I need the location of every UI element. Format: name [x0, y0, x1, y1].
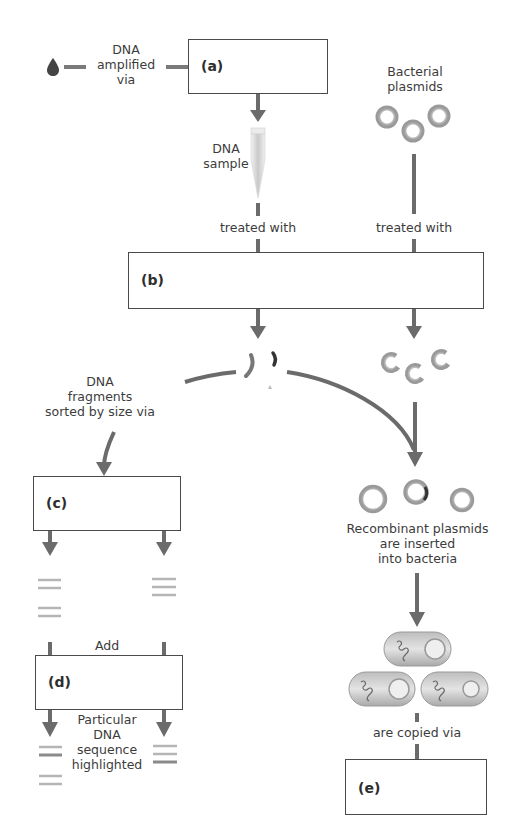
- label-particular: Particular DNA sequence highlighted: [64, 712, 150, 772]
- label-add: Add: [82, 638, 132, 653]
- label-dna-amplified: DNA amplified via: [86, 42, 166, 87]
- box-e-label: (e): [358, 780, 380, 796]
- label-recombinant: Recombinant plasmids are inserted into b…: [330, 521, 505, 566]
- box-d-label: (d): [48, 674, 71, 690]
- label-line: fragments: [30, 389, 170, 404]
- label-line: Bacterial: [370, 64, 460, 79]
- blood-drop-icon: [47, 58, 59, 76]
- box-c: (c): [33, 476, 181, 531]
- box-a: (a): [188, 39, 328, 94]
- gel-band-icon: [38, 579, 176, 616]
- label-dna-sample: DNA sample: [196, 141, 256, 171]
- box-d: (d): [35, 655, 183, 710]
- label-line: plasmids: [370, 79, 460, 94]
- box-c-label: (c): [46, 495, 67, 511]
- label-bacterial-plasmids: Bacterial plasmids: [370, 64, 460, 94]
- label-line: Recombinant plasmids: [330, 521, 505, 536]
- label-line: DNA: [86, 42, 166, 57]
- box-b: (b): [128, 252, 484, 309]
- box-e: (e): [345, 759, 487, 815]
- label-line: DNA: [30, 374, 170, 389]
- box-b-label: (b): [141, 272, 164, 288]
- plasmid-ring-icon: [378, 107, 448, 140]
- label-treated-with-left: treated with: [208, 220, 308, 235]
- label-line: amplified: [86, 57, 166, 72]
- dna-fragment-icon: [246, 353, 275, 389]
- label-line: Particular: [64, 712, 150, 727]
- label-line: via: [86, 72, 166, 87]
- label-line: DNA: [64, 727, 150, 742]
- label-line: are inserted: [330, 536, 505, 551]
- plasmid-cut-icon: [383, 352, 448, 382]
- box-a-label: (a): [201, 58, 223, 74]
- label-are-copied: are copied via: [362, 725, 472, 740]
- label-line: sorted by size via: [30, 404, 170, 419]
- label-line: DNA: [196, 141, 256, 156]
- label-treated-with-right: treated with: [364, 220, 464, 235]
- label-line: into bacteria: [330, 551, 505, 566]
- label-line: sequence: [64, 742, 150, 757]
- label-dna-fragments: DNA fragments sorted by size via: [30, 374, 170, 419]
- bacterium-icon: [349, 632, 488, 706]
- label-line: sample: [196, 156, 256, 171]
- label-line: highlighted: [64, 757, 150, 772]
- recombinant-plasmid-icon: [361, 482, 472, 512]
